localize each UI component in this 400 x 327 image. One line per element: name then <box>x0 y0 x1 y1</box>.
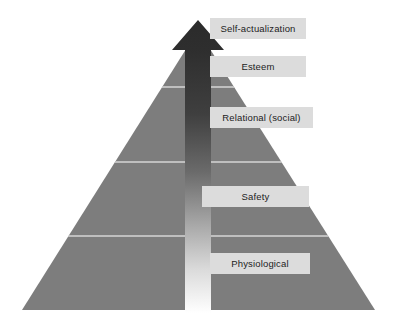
level-label-esteem: Esteem <box>210 56 306 77</box>
level-label-text: Esteem <box>241 61 274 72</box>
level-label-physiological: Physiological <box>210 253 310 274</box>
pyramid-graphic <box>0 0 400 327</box>
level-label-text: Safety <box>242 191 270 202</box>
level-label-relational-social: Relational (social) <box>210 107 313 128</box>
level-label-text: Relational (social) <box>222 112 300 123</box>
maslow-pyramid-diagram: Self-actualization Esteem Relational (so… <box>0 0 400 327</box>
level-label-safety: Safety <box>202 186 309 207</box>
level-label-self-actualization: Self-actualization <box>210 18 306 39</box>
level-label-text: Physiological <box>231 258 288 269</box>
level-label-text: Self-actualization <box>220 23 295 34</box>
